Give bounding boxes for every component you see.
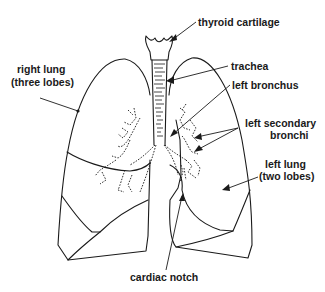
label-thyroid-cartilage: thyroid cartilage (198, 16, 280, 28)
leader-cardiac-notch (166, 193, 185, 270)
label-right-lung-line1: right lung (17, 63, 65, 75)
label-left-bronchus: left bronchus (232, 79, 299, 91)
bronchial-tree-right (95, 108, 156, 192)
thyroid-cartilage-shape (145, 36, 172, 60)
label-right-lung-line2: (three lobes) (11, 76, 74, 88)
right-lung-shape (58, 59, 150, 260)
label-cardiac-notch: cardiac notch (130, 271, 198, 283)
leader-left-bronchus (170, 85, 230, 137)
lung-illustration: thyroid cartilage trachea left bronchus … (0, 0, 325, 292)
label-left-secondary-bronchi-line1: left secondary (245, 117, 316, 129)
trachea-rings (154, 64, 165, 136)
label-trachea: trachea (231, 60, 269, 72)
trachea-shape (152, 60, 154, 145)
leader-left-lung (222, 177, 258, 191)
leader-thyroid-cartilage (169, 22, 196, 42)
lung-diagram: thyroid cartilage trachea left bronchus … (0, 0, 325, 292)
label-left-secondary-bronchi-line2: bronchi (270, 129, 309, 141)
leader-left-secondary-bronchi (194, 128, 238, 152)
label-left-lung-line1: left lung (265, 158, 306, 170)
label-left-lung-line2: (two lobes) (259, 170, 314, 182)
leader-trachea (166, 66, 228, 84)
leader-right-lung (40, 98, 80, 113)
